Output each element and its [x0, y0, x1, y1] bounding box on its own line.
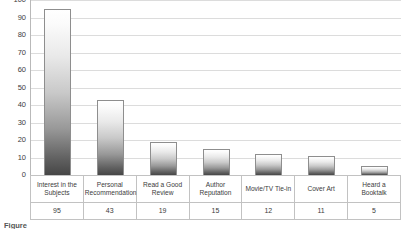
table-cell-category: Heard a Booktalk	[348, 176, 401, 203]
bar[interactable]	[150, 142, 177, 175]
table-cell-category: Read a GoodReview	[136, 176, 189, 203]
data-table: Interest in theSubjectsPersonalRecommend…	[30, 175, 401, 220]
y-axis-tick-label: 60	[0, 66, 26, 74]
figure-caption: Figure	[4, 221, 398, 229]
table-cell-value: 43	[83, 203, 136, 220]
bar[interactable]	[203, 149, 230, 175]
y-axis: 1009080706050403020100	[0, 0, 30, 175]
y-axis-tick-label: 10	[0, 154, 26, 162]
y-axis-tick-label: 80	[0, 31, 26, 39]
table-row-categories: Interest in theSubjectsPersonalRecommend…	[31, 176, 401, 203]
table-cell-value: 5	[348, 203, 401, 220]
bar[interactable]	[255, 154, 282, 175]
table-cell-category: PersonalRecommendation	[83, 176, 136, 203]
caption-label: Figure	[4, 221, 27, 229]
table-cell-category: Cover Art	[295, 176, 348, 203]
bar-chart: 1009080706050403020100	[0, 0, 401, 175]
bar-slot	[242, 0, 295, 175]
y-axis-tick-label: 100	[0, 0, 26, 4]
y-axis-tick-label: 70	[0, 49, 26, 57]
table-row-values: 9543191512115	[31, 203, 401, 220]
table-cell-value: 15	[189, 203, 242, 220]
table-cell-category: AuthorReputation	[189, 176, 242, 203]
table-cell-value: 11	[295, 203, 348, 220]
table-cell-category: Interest in theSubjects	[31, 176, 84, 203]
bar-slot	[84, 0, 137, 175]
y-axis-tick-label: 40	[0, 101, 26, 109]
bar-slot	[348, 0, 401, 175]
table-cell-category: Movie/TV Tie-in	[242, 176, 295, 203]
bar-slot	[295, 0, 348, 175]
y-axis-tick-label: 50	[0, 84, 26, 92]
bar[interactable]	[361, 166, 388, 175]
bar[interactable]	[44, 9, 71, 175]
y-axis-tick-label: 90	[0, 14, 26, 22]
bar[interactable]	[308, 156, 335, 175]
y-axis-tick-label: 20	[0, 136, 26, 144]
bar-series	[31, 0, 401, 175]
y-axis-tick-label: 0	[0, 171, 26, 179]
bar[interactable]	[97, 100, 124, 175]
figure: 1009080706050403020100 Interest in theSu…	[0, 0, 401, 229]
table-cell-value: 12	[242, 203, 295, 220]
table-cell-value: 95	[31, 203, 84, 220]
bar-slot	[137, 0, 190, 175]
table-cell-value: 19	[136, 203, 189, 220]
bar-slot	[31, 0, 84, 175]
bar-slot	[190, 0, 243, 175]
plot-area	[30, 0, 401, 175]
y-axis-tick-label: 30	[0, 119, 26, 127]
